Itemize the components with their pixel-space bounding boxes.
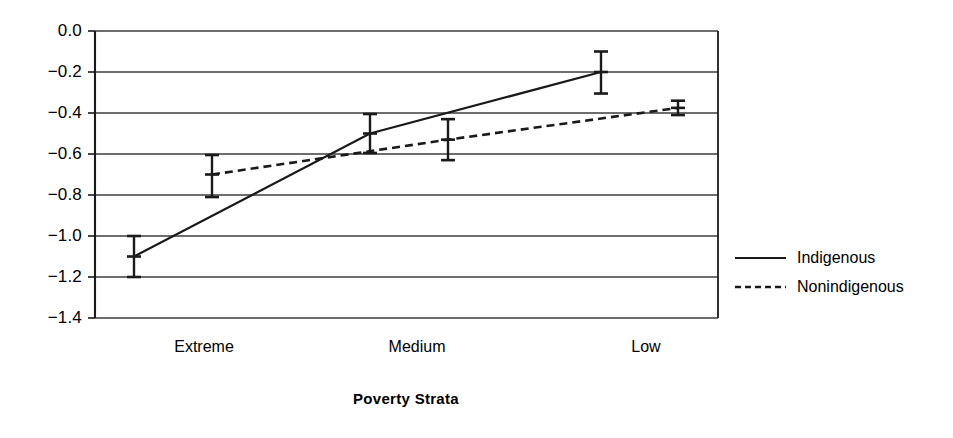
- x-axis-tick-label: Medium: [347, 339, 487, 355]
- error-bar: [594, 52, 608, 94]
- x-axis-title: Poverty Strata: [286, 390, 526, 407]
- legend-swatch-group: [735, 258, 786, 287]
- y-axis-tick-label: 0.0: [10, 22, 82, 39]
- chart-canvas: [0, 0, 953, 438]
- axis-line-group: [95, 31, 718, 318]
- x-axis-tick-label: Extreme: [134, 339, 274, 355]
- y-axis-tick-label: −0.6: [10, 145, 82, 162]
- y-axis-tick-label: −0.8: [10, 186, 82, 203]
- legend-item-label: Nonindigenous: [797, 279, 904, 295]
- y-axis-tick-label: −0.4: [10, 104, 82, 121]
- error-bar-group: [127, 52, 685, 278]
- x-axis-tick-label: Low: [576, 339, 716, 355]
- y-axis-tick-label: −0.2: [10, 63, 82, 80]
- data-series-group: [134, 72, 678, 257]
- series-line-indigenous: [134, 72, 601, 257]
- y-axis-tick-label: −1.0: [10, 227, 82, 244]
- y-axis-tick-label: −1.2: [10, 268, 82, 285]
- y-axis-tick-label: −1.4: [10, 309, 82, 326]
- legend-item-label: Indigenous: [797, 250, 875, 266]
- chart-figure: 0.0−0.2−0.4−0.6−0.8−1.0−1.2−1.4 ExtremeM…: [0, 0, 953, 438]
- error-bar: [363, 114, 377, 153]
- error-bar: [127, 236, 141, 277]
- gridline-group: [95, 31, 718, 318]
- error-bar: [205, 155, 219, 197]
